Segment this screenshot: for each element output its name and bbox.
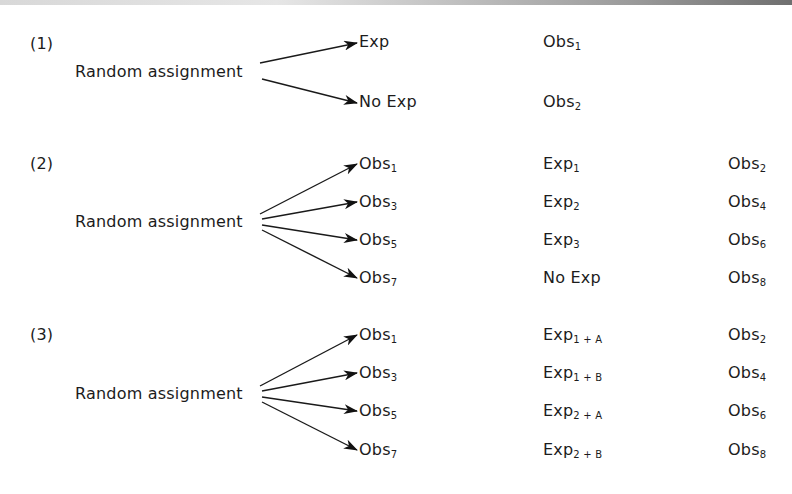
arrow-1-noexp: [262, 79, 357, 103]
design-3-treatment-1: Exp1 + A: [543, 325, 602, 345]
design-3-posttest-3: Obs6: [728, 401, 766, 421]
design-1-source: Random assignment: [75, 62, 243, 82]
design-2-pretest-3: Obs5: [359, 230, 397, 250]
design-1-branch-2: No Exp: [359, 92, 417, 112]
design-2-posttest-4: Obs8: [728, 268, 766, 288]
design-2-treatment-3: Exp3: [543, 230, 580, 250]
design-3-posttest-2: Obs4: [728, 363, 766, 383]
design-3-pretest-4: Obs7: [359, 440, 397, 460]
design-3-treatment-4: Exp2 + B: [543, 440, 602, 460]
design-1-outcome-2: Obs2: [543, 92, 581, 112]
design-2-treatment-1: Exp1: [543, 154, 580, 174]
design-3-label: (3): [30, 325, 53, 345]
arrow-3-row1: [260, 335, 357, 386]
design-3-treatment-2: Exp1 + B: [543, 363, 602, 383]
design-2-posttest-1: Obs2: [728, 154, 766, 174]
arrow-2-row1: [260, 164, 357, 214]
arrow-2-row2: [262, 202, 357, 219]
design-3-treatment-3: Exp2 + A: [543, 401, 602, 421]
design-3-pretest-3: Obs5: [359, 401, 397, 421]
design-2-label: (2): [30, 154, 53, 174]
design-1-branch-1: Exp: [359, 32, 389, 52]
arrow-1-exp: [260, 43, 357, 63]
design-2-posttest-2: Obs4: [728, 192, 766, 212]
design-2-source: Random assignment: [75, 212, 243, 232]
design-2-treatment-2: Exp2: [543, 192, 580, 212]
design-2-treatment-4: No Exp: [543, 268, 601, 288]
design-2-pretest-2: Obs3: [359, 192, 397, 212]
design-1-outcome-1: Obs1: [543, 32, 581, 52]
design-1-label: (1): [30, 34, 53, 54]
design-2-pretest-4: Obs7: [359, 268, 397, 288]
design-2-posttest-3: Obs6: [728, 230, 766, 250]
design-3-pretest-1: Obs1: [359, 325, 397, 345]
design-3-pretest-2: Obs3: [359, 363, 397, 383]
design-3-source: Random assignment: [75, 384, 243, 404]
design-2-pretest-1: Obs1: [359, 154, 397, 174]
design-3-posttest-4: Obs8: [728, 440, 766, 460]
design-3-posttest-1: Obs2: [728, 325, 766, 345]
arrow-3-row2: [262, 373, 357, 391]
